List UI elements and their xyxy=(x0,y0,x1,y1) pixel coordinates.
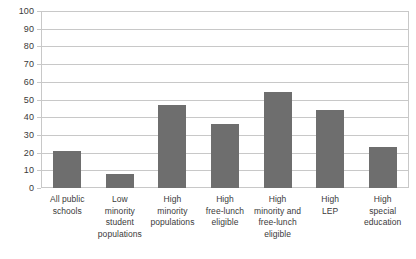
bars-layer xyxy=(41,11,409,188)
x-axis-tick-label: Lowminoritystudentpopulations xyxy=(91,194,150,240)
bar[interactable] xyxy=(211,124,239,188)
bar-slot xyxy=(199,11,252,188)
x-axis-tick-label-line: High xyxy=(353,194,412,206)
bar-slot xyxy=(41,11,94,188)
bar-slot xyxy=(146,11,199,188)
x-axis-tick-label-line: minority xyxy=(91,206,150,218)
y-axis-tick-label: 100 xyxy=(0,7,34,16)
bar[interactable] xyxy=(53,151,81,188)
x-axis-tick-label-line: All public xyxy=(38,194,97,206)
x-axis-tick-label-line: education xyxy=(353,217,412,229)
bar-slot xyxy=(251,11,304,188)
x-axis-tick-label: Highminority andfree-luncheligible xyxy=(248,194,307,240)
x-axis-tick-label-line: minority and xyxy=(248,206,307,218)
y-axis-tick-mark xyxy=(37,82,41,83)
bar-slot xyxy=(304,11,357,188)
x-axis-tick-label: Highfree-luncheligible xyxy=(196,194,255,229)
bar[interactable] xyxy=(106,174,134,188)
y-axis-tick-mark xyxy=(37,46,41,47)
y-axis-tick-mark xyxy=(37,170,41,171)
bar-slot xyxy=(356,11,409,188)
y-axis-tick-label: 70 xyxy=(0,60,34,69)
x-axis-tick-label-line: free-lunch xyxy=(248,217,307,229)
x-axis-tick-label-line: minority xyxy=(143,206,202,218)
x-axis-tick-label-line: populations xyxy=(143,217,202,229)
y-axis-tick-mark xyxy=(37,100,41,101)
y-axis-tick-mark xyxy=(37,117,41,118)
y-axis-tick-mark xyxy=(37,153,41,154)
y-axis-tick-mark xyxy=(37,135,41,136)
x-axis-tick-label-line: LEP xyxy=(301,206,360,218)
y-axis-tick-label: 50 xyxy=(0,95,34,104)
y-axis-tick-label: 10 xyxy=(0,166,34,175)
bar-chart: 1009080706050403020100 All publicschools… xyxy=(0,0,416,259)
x-axis-tick-label-line: eligible xyxy=(248,229,307,241)
y-axis-tick-mark xyxy=(37,11,41,12)
bar-slot xyxy=(94,11,147,188)
x-axis-tick-label-line: free-lunch xyxy=(196,206,255,218)
x-axis-tick-label-line: High xyxy=(248,194,307,206)
y-axis-tick-mark xyxy=(37,29,41,30)
x-axis-tick-label-line: schools xyxy=(38,206,97,218)
x-axis-tick-label-line: High xyxy=(143,194,202,206)
bar[interactable] xyxy=(316,110,344,188)
y-axis-tick-label: 0 xyxy=(0,184,34,193)
x-axis-tick-label-line: eligible xyxy=(196,217,255,229)
x-axis-tick-label-line: Low xyxy=(91,194,150,206)
y-axis-tick-label: 30 xyxy=(0,130,34,139)
x-axis-tick-label-line: High xyxy=(301,194,360,206)
y-axis: 1009080706050403020100 xyxy=(0,11,34,188)
y-axis-tick-label: 20 xyxy=(0,148,34,157)
bar[interactable] xyxy=(264,92,292,188)
y-axis-tick-label: 90 xyxy=(0,24,34,33)
x-axis-tick-label-line: student xyxy=(91,217,150,229)
y-axis-tick-label: 40 xyxy=(0,113,34,122)
y-axis-tick-mark xyxy=(37,188,41,189)
x-axis-tick-label: Highspecialeducation xyxy=(353,194,412,229)
x-axis-tick-label-line: populations xyxy=(91,229,150,241)
x-axis-tick-label-line: special xyxy=(353,206,412,218)
y-axis-tick-label: 80 xyxy=(0,42,34,51)
x-axis-tick-label: Highminoritypopulations xyxy=(143,194,202,229)
x-axis-tick-label: All publicschools xyxy=(38,194,97,217)
x-axis-tick-label-line: High xyxy=(196,194,255,206)
y-axis-tick-mark xyxy=(37,64,41,65)
x-axis-tick-label: HighLEP xyxy=(301,194,360,217)
x-axis: All publicschoolsLowminoritystudentpopul… xyxy=(41,194,409,256)
bar[interactable] xyxy=(369,147,397,188)
y-axis-tick-label: 60 xyxy=(0,77,34,86)
bar[interactable] xyxy=(158,105,186,188)
